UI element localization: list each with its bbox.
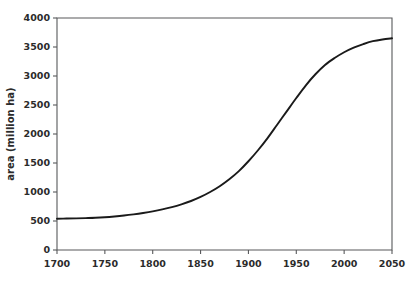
chart-background [0, 0, 415, 285]
x-tick-label: 1850 [187, 258, 214, 269]
x-tick-label: 1900 [235, 258, 262, 269]
y-tick-label: 3500 [24, 41, 51, 52]
x-tick-label: 1800 [139, 258, 166, 269]
chart-container: 05001000150020002500300035004000 1700175… [0, 0, 415, 285]
y-tick-label: 1000 [24, 186, 51, 197]
line-chart: 05001000150020002500300035004000 1700175… [0, 0, 415, 285]
y-tick-label: 2000 [24, 128, 51, 139]
x-tick-label: 1700 [44, 258, 71, 269]
x-tick-label: 1750 [92, 258, 119, 269]
y-tick-label: 500 [30, 215, 50, 226]
x-tick-label: 1950 [283, 258, 310, 269]
y-axis-title: area (million ha) [5, 87, 16, 180]
y-tick-label: 0 [43, 244, 50, 255]
x-tick-label: 2050 [379, 258, 406, 269]
y-tick-label: 2500 [24, 99, 51, 110]
y-tick-label: 3000 [24, 70, 51, 81]
y-tick-label: 4000 [24, 12, 51, 23]
x-tick-label: 2000 [331, 258, 358, 269]
y-tick-label: 1500 [24, 157, 51, 168]
